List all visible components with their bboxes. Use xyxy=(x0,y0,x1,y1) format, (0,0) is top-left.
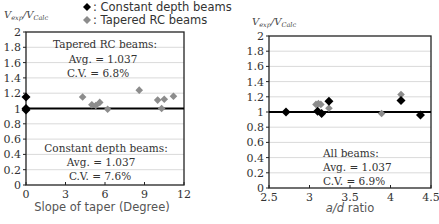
right-chart: Vexp/VCalc 00.20.40.60.811.21.41.61.82 2… xyxy=(247,16,439,215)
x-tick-label: 4.5 xyxy=(422,191,439,204)
left-y-axis-label: Vexp/VCalc xyxy=(4,9,48,22)
constant-depth-point xyxy=(22,106,31,115)
y-tick-label: 1.8 xyxy=(247,45,265,58)
y-tick-label: 0.8 xyxy=(4,118,22,131)
left-annotation-tapered-avg: Avg. = 1.037 xyxy=(68,53,138,65)
tapered-point xyxy=(160,96,168,104)
right-y-ticks: 00.20.40.60.811.21.41.61.82 xyxy=(247,30,270,195)
y-tick-label: 0 xyxy=(14,179,21,192)
y-tick-label: 1 xyxy=(257,106,264,119)
y-tick-label: 0.2 xyxy=(4,164,22,177)
legend-label-tapered: : Tapered RC beams xyxy=(93,13,207,27)
y-tick-label: 1.6 xyxy=(247,60,265,73)
y-tick-label: 1.2 xyxy=(4,87,22,100)
y-tick-label: 1.4 xyxy=(4,72,22,85)
y-tick-label: 1.2 xyxy=(247,91,265,104)
x-tick-label: 12 xyxy=(177,188,191,201)
x-tick-label: 4 xyxy=(387,191,394,204)
x-tick-label: 3 xyxy=(306,191,313,204)
x-tick-label: 0 xyxy=(23,188,30,201)
y-tick-label: 1 xyxy=(14,103,21,116)
gray-diamond-icon xyxy=(83,16,91,24)
y-tick-label: 0.2 xyxy=(247,167,265,180)
right-annotation-avg: Avg. = 1.037 xyxy=(322,161,392,173)
tapered-point xyxy=(79,93,87,101)
right-x-axis-label: a/d ratio xyxy=(326,201,374,215)
figure: : Constant depth beams : Tapered RC beam… xyxy=(0,0,439,224)
x-tick-label: 2.5 xyxy=(260,191,278,204)
constant-depth-point xyxy=(22,93,31,102)
constant-depth-point xyxy=(324,97,333,106)
y-tick-label: 0.6 xyxy=(4,133,22,146)
y-tick-label: 0.8 xyxy=(247,121,265,134)
right-annotation-title: All beams: xyxy=(322,147,379,159)
tapered-point xyxy=(158,105,166,113)
constant-depth-point xyxy=(282,108,291,117)
legend: : Constant depth beams : Tapered RC beam… xyxy=(83,0,232,27)
constant-depth-point xyxy=(397,96,406,105)
y-tick-label: 1.6 xyxy=(4,57,22,70)
y-tick-label: 2 xyxy=(14,26,21,39)
left-x-axis-label: Slope of taper (Degree) xyxy=(34,200,169,214)
right-data-points xyxy=(282,91,425,120)
y-tick-label: 0.4 xyxy=(4,148,22,161)
tapered-point xyxy=(154,96,162,104)
y-tick-label: 2 xyxy=(257,30,264,43)
y-tick-label: 0.4 xyxy=(247,152,265,165)
black-diamond-icon xyxy=(83,3,91,11)
left-annotation-tapered-title: Tapered RC beams: xyxy=(53,38,157,50)
tapered-point xyxy=(104,105,112,113)
left-annotation-constant-title: Constant depth beams: xyxy=(44,142,167,154)
tapered-point xyxy=(378,110,386,118)
left-data-points xyxy=(22,86,178,114)
right-y-axis-label: Vexp/VCalc xyxy=(252,16,296,29)
left-chart: Vexp/VCalc 00.20.40.60.811.21.41.61.82 0… xyxy=(4,9,192,214)
y-tick-label: 1.4 xyxy=(247,76,265,89)
legend-label-constant: : Constant depth beams xyxy=(93,0,232,14)
right-annotation-cv: C.V. = 6.9% xyxy=(323,175,385,187)
left-annotation-tapered-cv: C.V. = 6.8% xyxy=(67,67,129,79)
left-annotation-constant-avg: Avg. = 1.037 xyxy=(66,156,136,168)
left-annotation-constant-cv: C.V. = 7.6% xyxy=(69,170,131,182)
y-tick-label: 1.8 xyxy=(4,41,22,54)
y-tick-label: 0.6 xyxy=(247,136,265,149)
